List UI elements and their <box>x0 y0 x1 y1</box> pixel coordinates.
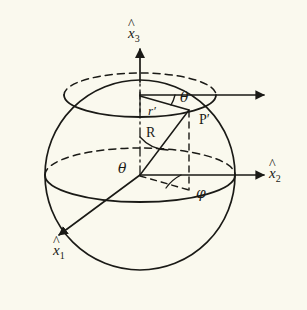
hat-accent-x1: ^ <box>53 234 60 248</box>
projection-line-dashed <box>140 176 189 190</box>
equator-front-solid <box>45 175 235 202</box>
axis-subscript-x3: 3 <box>135 33 140 44</box>
R-radius-line <box>140 110 189 175</box>
x1-axis-arrow <box>59 175 140 235</box>
R-label: R <box>146 126 155 140</box>
theta-top-arc <box>171 95 175 105</box>
spherical-coordinates-figure: ^x3 ^x2 ^x1 θ r′ R P′ θ φ <box>0 0 307 310</box>
hat-accent-x3: ^ <box>128 17 135 31</box>
axis-label-x2: ^x2 <box>269 166 281 181</box>
r-prime-label: r′ <box>148 104 156 117</box>
theta-origin-label: θ <box>118 161 126 175</box>
axis-subscript-x2: 2 <box>276 173 281 184</box>
theta-top-label: θ <box>180 90 188 104</box>
axis-subscript-x1: 1 <box>60 250 65 261</box>
point-P-prime-label: P′ <box>199 113 210 127</box>
diagram-canvas <box>0 0 307 310</box>
phi-label: φ <box>196 186 206 200</box>
hat-accent-x2: ^ <box>269 157 276 171</box>
axis-label-x3: ^x3 <box>128 26 140 41</box>
axis-label-x1: ^x1 <box>53 243 65 258</box>
